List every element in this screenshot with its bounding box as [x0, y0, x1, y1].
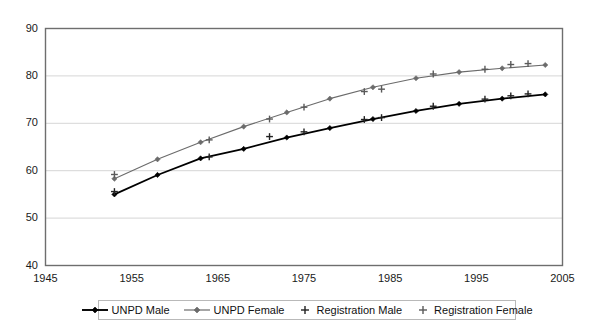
y-tick-label-90: 90: [8, 22, 38, 34]
legend-item-label: Registration Female: [434, 304, 532, 316]
x-tick-label-1975: 1975: [281, 272, 327, 284]
plot-canvas: [0, 0, 603, 334]
legend-item-unpd-female[interactable]: UNPD Female: [177, 304, 292, 316]
x-tick-label-1995: 1995: [453, 272, 499, 284]
y-tick-label-40: 40: [8, 259, 38, 271]
y-tick-label-60: 60: [8, 164, 38, 176]
legend-plus-icon: [416, 304, 430, 316]
legend-item-registration-male[interactable]: Registration Male: [291, 304, 409, 316]
series-unpd-female: [112, 62, 548, 181]
x-tick-label-1985: 1985: [367, 272, 413, 284]
y-tick-label-50: 50: [8, 211, 38, 223]
series-registration-female: [111, 60, 531, 178]
legend-plus-icon: [298, 304, 312, 316]
chart-legend: UNPD MaleUNPD FemaleRegistration MaleReg…: [98, 300, 516, 320]
legend-item-unpd-male[interactable]: UNPD Male: [75, 304, 177, 316]
y-tick-label-80: 80: [8, 69, 38, 81]
x-tick-label-1945: 1945: [23, 272, 69, 284]
legend-item-label: UNPD Male: [112, 304, 170, 316]
legend-item-registration-female[interactable]: Registration Female: [409, 304, 539, 316]
y-tick-label-70: 70: [8, 116, 38, 128]
x-tick-label-1955: 1955: [109, 272, 155, 284]
x-tick-label-2005: 2005: [540, 272, 586, 284]
life-expectancy-line-chart: 405060708090 194519551965197519851995200…: [0, 0, 603, 334]
plot-frame: [46, 29, 563, 266]
legend-item-label: UNPD Female: [214, 304, 285, 316]
legend-item-label: Registration Male: [316, 304, 402, 316]
series-layer: [111, 60, 548, 197]
legend-line-diamond-icon: [82, 304, 108, 316]
series-registration-male: [111, 91, 531, 195]
series-unpd-male: [112, 92, 548, 197]
legend-line-diamond-icon: [184, 304, 210, 316]
x-tick-label-1965: 1965: [195, 272, 241, 284]
